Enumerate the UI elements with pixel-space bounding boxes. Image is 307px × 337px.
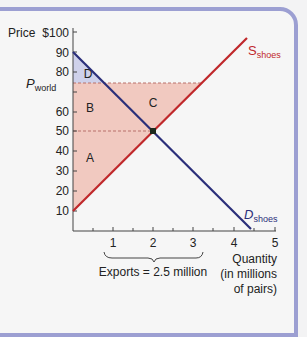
svg-text:of pairs): of pairs) [234,282,277,296]
svg-text:(in millions: (in millions [220,267,277,281]
svg-text:A: A [86,151,94,165]
exports-bracket [104,252,203,262]
svg-text:40: 40 [56,144,70,158]
svg-text:4: 4 [231,236,238,250]
svg-text:Quantity: Quantity [232,252,277,266]
svg-text:1: 1 [110,236,117,250]
svg-text:2: 2 [150,236,157,250]
svg-text:5: 5 [272,236,279,250]
supply-label: Sshoes [248,43,281,60]
svg-text:B: B [86,101,94,115]
world-price-label: Pworld [26,76,56,93]
y-tick-labels: $100 90 80 60 50 40 30 20 10 [42,26,69,218]
svg-text:10: 10 [56,204,70,218]
exports-annotation: Exports = 2.5 million [99,265,207,279]
x-tick-labels: 1 2 3 4 5 [110,236,279,250]
svg-text:60: 60 [56,105,70,119]
equilibrium-point [150,128,156,134]
y-axis-label: Price [8,26,36,40]
x-ticks [93,227,275,231]
svg-text:90: 90 [56,46,70,60]
svg-text:3: 3 [190,236,197,250]
svg-text:80: 80 [56,65,70,79]
x-axis-label: Quantity (in millions of pairs) [220,252,277,296]
svg-text:D: D [84,67,93,81]
svg-text:50: 50 [56,124,70,138]
demand-label: Dshoes [244,207,278,224]
svg-text:$100: $100 [42,26,69,40]
svg-text:20: 20 [56,184,70,198]
svg-text:30: 30 [56,164,70,178]
svg-text:C: C [149,96,158,110]
